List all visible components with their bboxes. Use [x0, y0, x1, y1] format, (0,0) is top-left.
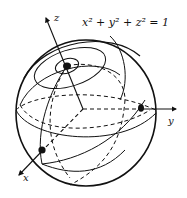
sphere-diagram: x² + y² + z² = 1 z y x [0, 0, 187, 198]
meridians [40, 36, 145, 185]
y-axis-label: y [167, 115, 174, 126]
latitude-circles [20, 39, 150, 128]
north-pole-dot [63, 63, 71, 70]
sphere-outline [16, 40, 156, 186]
marked-points [38, 63, 144, 154]
x-axis-label: x [23, 172, 29, 183]
x-axis-dot [38, 146, 45, 153]
equator [16, 95, 156, 137]
y-axis-dot [138, 104, 144, 112]
x-axis [43, 109, 83, 150]
z-axis-label: z [53, 12, 60, 23]
sphere-equation: x² + y² + z² = 1 [82, 16, 169, 29]
